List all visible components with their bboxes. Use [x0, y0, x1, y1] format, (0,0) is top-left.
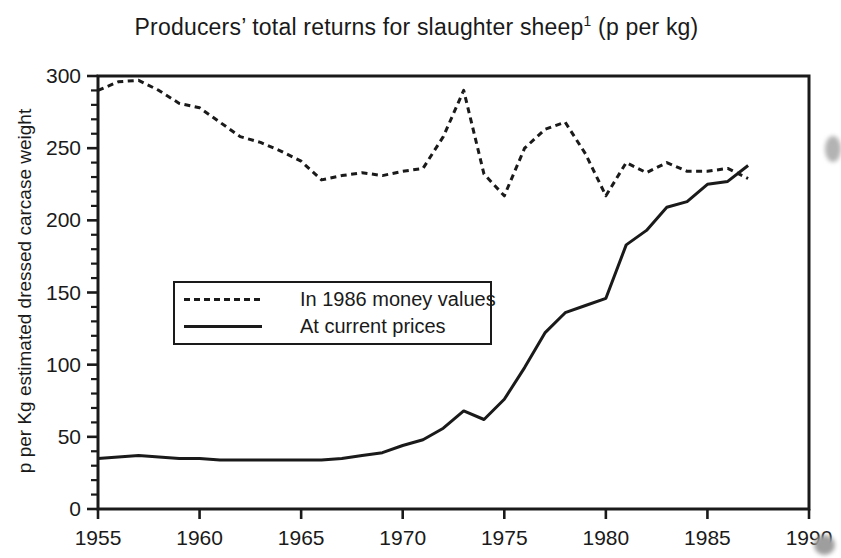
legend-box: In 1986 money values At current prices [173, 281, 492, 345]
scan-artifact [814, 535, 835, 555]
x-axis: 19551960196519701975198019851990 [75, 509, 833, 549]
solid-line-sample [184, 325, 262, 328]
legend-item-1986-money-values: In 1986 money values [184, 288, 490, 311]
dashed-line-sample [184, 298, 262, 301]
x-tick-label: 1965 [278, 526, 325, 549]
x-tick-label: 1960 [176, 526, 223, 549]
legend-item-current-prices: At current prices [184, 315, 490, 338]
y-tick-label: 150 [46, 281, 81, 304]
scan-artifact [825, 136, 841, 162]
x-tick-label: 1975 [481, 526, 528, 549]
legend-label-1986-money-values: In 1986 money values [300, 288, 496, 311]
y-tick-label: 200 [46, 208, 81, 231]
y-axis: 050100150200250300 [46, 64, 98, 520]
x-tick-label: 1970 [379, 526, 426, 549]
x-tick-label: 1985 [684, 526, 731, 549]
x-tick-label: 1980 [582, 526, 629, 549]
y-tick-label: 300 [46, 64, 81, 87]
y-tick-label: 100 [46, 353, 81, 376]
series-line-dashed [98, 80, 748, 196]
x-tick-label: 1955 [75, 526, 122, 549]
y-tick-label: 250 [46, 136, 81, 159]
y-tick-label: 0 [69, 497, 81, 520]
legend-label-current-prices: At current prices [300, 315, 446, 338]
y-tick-label: 50 [58, 425, 81, 448]
